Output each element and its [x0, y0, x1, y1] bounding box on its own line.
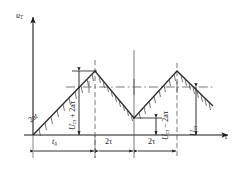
dimension-label-td: tд: [52, 138, 57, 146]
y-axis-label: uT: [16, 12, 23, 20]
waveform-plot-svg: [0, 0, 241, 180]
x-axis-label: t: [225, 133, 227, 141]
dimension-label-2tau-first: 2τ: [105, 138, 112, 146]
amplitude-dimension-diff: [133, 118, 162, 135]
waveform-trace: [33, 71, 213, 135]
amplitude-diff-label: Ur.з − 2aτ: [162, 111, 170, 140]
dimension-label-2tau-second: 2τ: [148, 138, 155, 146]
amplitude-base-label: Ur.з: [190, 126, 198, 136]
amplitude-sum-label: Ur.з + 2aτ: [69, 101, 77, 130]
waveform-figure: uT t 2at Ur.з + 2aτ Ur.з − 2aτ Ur.з tд 2…: [0, 0, 241, 180]
hatch-marks: [39, 74, 211, 136]
